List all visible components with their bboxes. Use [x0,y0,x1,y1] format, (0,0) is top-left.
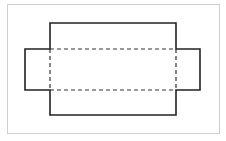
box-net-diagram [0,0,226,141]
fold-lines [50,49,176,90]
net-outline [25,23,200,115]
